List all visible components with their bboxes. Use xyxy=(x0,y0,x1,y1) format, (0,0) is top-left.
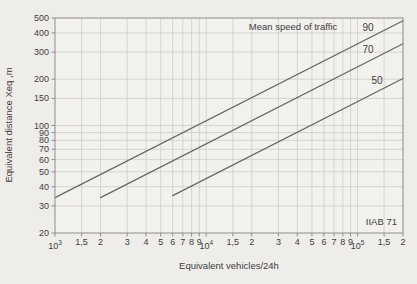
x-tick-label: 7 xyxy=(332,237,337,247)
y-tick-label: 70 xyxy=(39,144,49,154)
x-tick-label: 103 xyxy=(48,239,62,250)
y-tick-label: 500 xyxy=(34,13,49,23)
traffic-noise-nomogram: 1031,5234567891041,5234567891051,5250040… xyxy=(0,0,417,284)
x-tick-label: 2 xyxy=(98,237,103,247)
x-axis-title: Equivalent vehicles/24h xyxy=(179,261,279,271)
y-tick-label: 60 xyxy=(39,155,49,165)
y-tick-label: 200 xyxy=(34,74,49,84)
x-tick-label: 2 xyxy=(400,237,405,247)
x-tick-label: 8 xyxy=(189,237,194,247)
series-label-70: 70 xyxy=(362,44,374,55)
y-tick-label: 400 xyxy=(34,28,49,38)
series-label-90: 90 xyxy=(362,22,374,33)
x-tick-label: 1,5 xyxy=(75,237,88,247)
x-tick-label: 8 xyxy=(340,237,345,247)
y-axis-title: Equivalent distance Xeq ,m xyxy=(4,67,14,182)
y-tick-label: 20 xyxy=(39,228,49,238)
chart-canvas: 1031,5234567891041,5234567891051,5250040… xyxy=(0,0,417,284)
x-tick-label: 2 xyxy=(249,237,254,247)
y-tick-label: 50 xyxy=(39,167,49,177)
series-label-50: 50 xyxy=(371,75,383,86)
x-tick-label: 3 xyxy=(276,237,281,247)
x-tick-label: 1,5 xyxy=(227,237,240,247)
x-tick-label: 6 xyxy=(170,237,175,247)
x-tick-label: 3 xyxy=(125,237,130,247)
x-tick-label: 1,5 xyxy=(378,237,391,247)
y-tick-label: 40 xyxy=(39,182,49,192)
x-tick-label: 4 xyxy=(144,237,149,247)
x-tick-label: 104 xyxy=(199,239,213,250)
x-tick-label: 7 xyxy=(180,237,185,247)
x-tick-label: 5 xyxy=(158,237,163,247)
source-label: IIAB 71 xyxy=(366,217,397,227)
x-tick-label: 5 xyxy=(309,237,314,247)
x-tick-label: 4 xyxy=(295,237,300,247)
y-tick-label: 150 xyxy=(34,93,49,103)
x-tick-label: 6 xyxy=(321,237,326,247)
y-tick-label: 30 xyxy=(39,201,49,211)
legend-title: Mean speed of traffic xyxy=(249,22,338,32)
y-tick-label: 300 xyxy=(34,47,49,57)
x-tick-label: 105 xyxy=(351,239,365,250)
